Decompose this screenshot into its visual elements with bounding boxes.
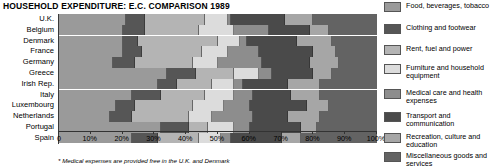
bar-segment: [135, 57, 192, 68]
bar-segment: [218, 57, 263, 68]
legend-item[interactable]: Medical care and health expenses: [384, 89, 501, 105]
axis-tick-label: 100%: [367, 134, 385, 143]
bar-segment: [205, 14, 227, 25]
legend-label: Furniture and household equipment: [406, 64, 484, 80]
chart-footnote: * Medical expenses are provided free in …: [58, 157, 230, 164]
bar-row: [59, 111, 377, 122]
legend-swatch-icon: [384, 2, 401, 12]
bar-segment: [259, 68, 272, 79]
bar-segment: [113, 57, 135, 68]
axis-tick-label: 40%: [178, 134, 192, 143]
legend-swatch-icon: [384, 152, 401, 162]
axis-tick-label: 50%: [210, 134, 224, 143]
bar-segment: [336, 46, 377, 57]
country-label: Greece: [29, 68, 54, 79]
bar-row: [59, 68, 377, 79]
country-label: Germany: [23, 57, 54, 68]
legend-item[interactable]: Rent, fuel and power: [384, 45, 501, 55]
country-label: France: [30, 46, 54, 57]
bar-segment: [59, 68, 167, 79]
bar-segment: [177, 79, 212, 90]
bar-segment: [253, 90, 291, 101]
legend-label: Rent, fuel and power: [406, 45, 472, 53]
bar-segment: [291, 90, 320, 101]
country-label: Italy: [40, 90, 54, 101]
bar-segment: [59, 14, 126, 25]
bar-row: [59, 14, 377, 25]
bar-segment: [288, 111, 320, 122]
chart-plot-area: U.K.BelgiumDenmarkFranceGermanyGreeceIri…: [0, 14, 378, 154]
bar-row: [59, 79, 377, 90]
legend-swatch-icon: [384, 112, 401, 122]
bar-segment: [234, 68, 259, 79]
country-label: Portugal: [26, 122, 54, 133]
bar-segment: [59, 90, 132, 101]
bar-row: [59, 46, 377, 57]
chart-legend: Food, beverages, tobaccoClothing and foo…: [384, 0, 501, 166]
bar-segment: [285, 14, 314, 25]
bar-segment: [259, 46, 313, 57]
bar-segment: [132, 111, 189, 122]
bar-segment: [59, 111, 110, 122]
axis-tick-label: 10%: [83, 134, 97, 143]
legend-item[interactable]: Recreation, culture and education: [384, 133, 501, 149]
bar-segment: [272, 68, 313, 79]
legend-item[interactable]: Miscellaneous goods and services: [384, 152, 501, 166]
bar-segment: [320, 90, 377, 101]
bar-segment: [297, 36, 332, 47]
bar-segment: [59, 79, 158, 90]
bar-segment: [59, 25, 123, 36]
bar-row: [59, 36, 377, 47]
bar-segment: [339, 57, 377, 68]
bar-segment: [212, 111, 253, 122]
axis-tick-label: 90%: [337, 134, 351, 143]
legend-item[interactable]: Furniture and household equipment: [384, 64, 501, 80]
bar-segment: [247, 36, 298, 47]
bar-segment: [243, 79, 288, 90]
legend-swatch-icon: [384, 24, 401, 34]
legend-label: Recreation, culture and education: [406, 133, 480, 149]
bar-segment: [193, 57, 218, 68]
axis-tick-label: 60%: [242, 134, 256, 143]
bar-segment: [126, 14, 145, 25]
bar-segment: [116, 100, 135, 111]
axis-tick-label: 80%: [305, 134, 319, 143]
bar-segment: [269, 25, 310, 36]
bar-segment: [193, 100, 225, 111]
legend-swatch-icon: [384, 64, 401, 74]
legend-label: Food, beverages, tobacco: [406, 2, 489, 10]
axis-tick-label: 70%: [273, 134, 287, 143]
country-axis-labels: U.K.BelgiumDenmarkFranceGermanyGreeceIri…: [0, 14, 56, 144]
bar-segment: [212, 79, 234, 90]
country-label: U.K.: [39, 14, 54, 25]
bar-segment: [189, 111, 211, 122]
bar-segment: [231, 14, 285, 25]
bar-row: [59, 90, 377, 101]
bar-segment: [59, 57, 113, 68]
bar-segment: [329, 100, 377, 111]
chart-figure: HOUSEHOLD EXPENDITURE: E.C. COMPARISON 1…: [0, 0, 501, 166]
bar-segment: [196, 68, 234, 79]
bar-segment: [167, 68, 196, 79]
bar-segment: [313, 14, 377, 25]
bar-row: [59, 25, 377, 36]
bar-segment: [161, 90, 206, 101]
legend-item[interactable]: Transport and communication: [384, 112, 501, 128]
bar-segment: [234, 90, 253, 101]
bar-segment: [110, 111, 132, 122]
legend-item[interactable]: Clothing and footwear: [384, 24, 501, 34]
bar-segment: [142, 46, 202, 57]
bar-segment: [132, 90, 161, 101]
legend-label: Transport and communication: [406, 112, 454, 128]
bar-segment: [313, 68, 332, 79]
legend-item[interactable]: Food, beverages, tobacco: [384, 2, 501, 12]
bar-segment: [234, 25, 269, 36]
country-label: Denmark: [23, 36, 54, 47]
bar-segment: [202, 46, 227, 57]
bar-segment: [307, 100, 329, 111]
country-label: Luxembourg: [12, 100, 54, 111]
bar-segment: [313, 46, 335, 57]
bar-segment: [59, 100, 116, 111]
bar-segment: [145, 25, 199, 36]
bar-segment: [123, 36, 139, 47]
